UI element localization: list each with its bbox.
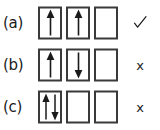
orbital-box: [94, 49, 118, 82]
diagram-row-c: (c) x: [0, 86, 160, 128]
orbital-box-group-a: [38, 7, 118, 40]
arrow-group: [68, 51, 88, 80]
spin-down-arrow-icon: [51, 94, 59, 121]
orbital-box: [66, 7, 90, 40]
arrow-group: [68, 93, 88, 122]
validity-mark-b: x: [130, 55, 150, 75]
cross-icon: x: [136, 59, 144, 72]
validity-mark-c: x: [130, 97, 150, 117]
orbital-box: [66, 91, 90, 124]
spin-up-arrow-icon: [46, 10, 55, 37]
row-label-b: (b): [3, 58, 23, 73]
spin-up-arrow-icon: [42, 94, 50, 121]
row-label-a: (a): [3, 16, 23, 31]
orbital-box: [94, 7, 118, 40]
arrow-group: [40, 51, 60, 80]
orbital-box: [66, 49, 90, 82]
spin-up-arrow-icon: [46, 52, 55, 79]
orbital-box: [38, 91, 62, 124]
orbital-box: [38, 7, 62, 40]
arrow-group: [96, 9, 116, 38]
check-icon: [132, 15, 148, 31]
diagram-row-b: (b): [0, 44, 160, 86]
orbital-diagram-figure: (a): [0, 0, 160, 130]
validity-mark-a: [130, 13, 150, 33]
cross-icon: x: [136, 101, 144, 114]
orbital-box: [38, 49, 62, 82]
spin-down-arrow-icon: [74, 52, 83, 79]
arrow-group: [96, 51, 116, 80]
arrow-group: [68, 9, 88, 38]
orbital-box: [94, 91, 118, 124]
arrow-group: [96, 93, 116, 122]
spin-up-arrow-icon: [74, 10, 83, 37]
row-label-c: (c): [3, 100, 22, 115]
diagram-row-a: (a): [0, 2, 160, 44]
arrow-group: [40, 9, 60, 38]
orbital-box-group-b: [38, 49, 118, 82]
arrow-group: [40, 93, 60, 122]
orbital-box-group-c: [38, 91, 118, 124]
